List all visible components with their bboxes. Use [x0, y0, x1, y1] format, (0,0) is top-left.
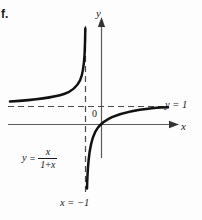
equation-equals-sign: =: [30, 154, 36, 164]
equation-label: y = x 1+x: [22, 147, 57, 170]
equation-lhs: y: [22, 153, 27, 164]
equation-fraction: x 1+x: [38, 147, 57, 170]
curve-right-branch: [87, 107, 168, 188]
equation-denominator: 1+x: [38, 159, 57, 170]
vertical-asymptote-label: x = −1: [60, 198, 89, 209]
figure-container: f. y x 0 y = 1 x = −1 y = x 1+x: [0, 0, 202, 220]
y-axis: [98, 17, 105, 158]
horizontal-asymptote-label: y = 1: [165, 100, 187, 111]
x-axis: [8, 121, 179, 128]
y-axis-label: y: [96, 8, 101, 19]
origin-label: 0: [92, 109, 97, 119]
denominator-right-term: x: [51, 159, 55, 170]
x-axis-label: x: [181, 121, 186, 132]
equation-numerator: x: [43, 147, 53, 158]
curve-left-branch: [10, 29, 85, 102]
